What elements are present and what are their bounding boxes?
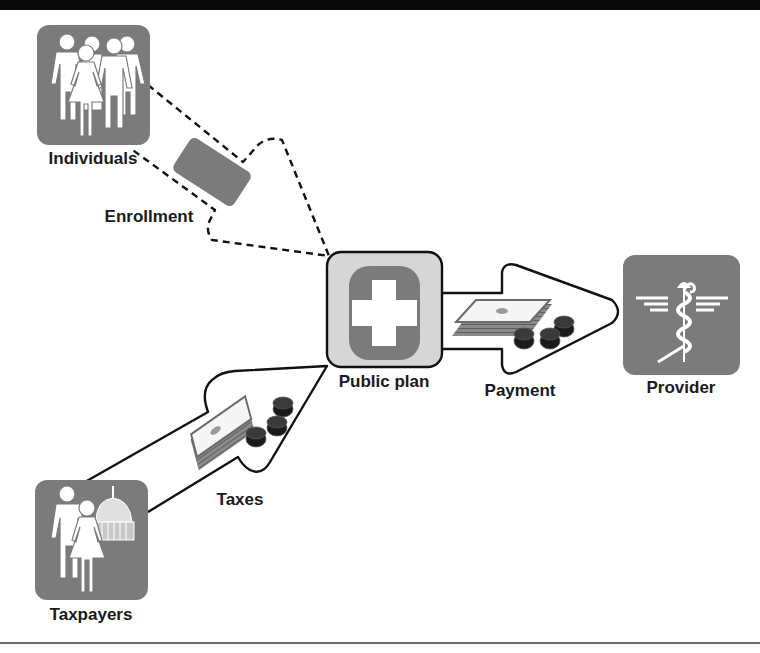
payment-label: Payment — [485, 381, 556, 401]
diagram-canvas — [0, 0, 760, 653]
enrollment-label: Enrollment — [105, 207, 194, 227]
provider-icon — [623, 255, 740, 375]
bottom-border — [0, 642, 760, 644]
public-plan-icon — [327, 252, 442, 367]
enrollment-card-icon — [171, 136, 253, 209]
taxpayers-icon — [35, 480, 148, 600]
taxes-label: Taxes — [217, 490, 264, 510]
public-plan-label: Public plan — [339, 372, 430, 392]
individuals-icon — [37, 25, 150, 145]
taxpayers-label: Taxpayers — [50, 605, 133, 625]
individuals-label: Individuals — [49, 149, 138, 169]
provider-label: Provider — [647, 378, 716, 398]
